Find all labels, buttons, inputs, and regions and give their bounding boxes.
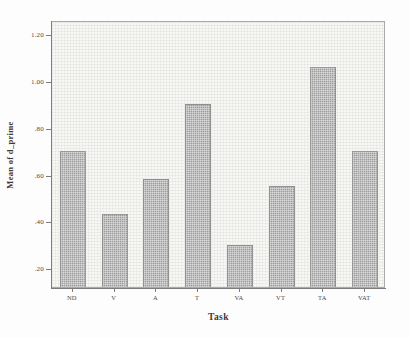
y-axis-tick-label: .40 xyxy=(35,218,44,226)
y-axis-tick-label: .20 xyxy=(35,265,44,273)
x-axis-tick xyxy=(114,288,115,292)
x-axis-tick-label: VAT xyxy=(358,294,370,301)
x-axis-line xyxy=(51,288,386,289)
y-axis-tick xyxy=(46,222,51,223)
bar xyxy=(143,179,169,287)
y-axis-tick xyxy=(46,129,51,130)
x-axis-tick xyxy=(322,288,323,292)
x-axis-tick-label: ND xyxy=(67,294,77,301)
y-axis-line xyxy=(51,21,52,289)
y-axis-tick-label: 1.00 xyxy=(31,78,44,86)
bar xyxy=(185,104,211,287)
x-axis-tick xyxy=(239,288,240,292)
bar xyxy=(269,186,295,287)
y-axis-tick xyxy=(46,269,51,270)
y-axis-tick-label: .80 xyxy=(35,125,44,133)
y-axis-tick-label: 1.20 xyxy=(31,31,44,39)
x-axis-tick-label: VT xyxy=(276,294,285,301)
bar xyxy=(102,214,128,287)
y-axis-tick xyxy=(46,35,51,36)
x-axis-tick-label: VA xyxy=(234,294,243,301)
x-axis-tick-label: TA xyxy=(318,294,327,301)
plot-area xyxy=(51,21,385,288)
x-axis-tick-label: A xyxy=(153,294,158,301)
bar xyxy=(60,151,86,287)
bar xyxy=(227,245,253,287)
y-axis-tick xyxy=(46,176,51,177)
x-axis-title: Task xyxy=(51,312,386,322)
x-axis-tick xyxy=(72,288,73,292)
bar xyxy=(352,151,378,287)
y-axis-title: Mean of d_prime xyxy=(5,121,15,188)
x-axis-tick xyxy=(155,288,156,292)
x-axis-tick-label: T xyxy=(195,294,199,301)
bar-series xyxy=(52,22,384,287)
x-axis-tick xyxy=(281,288,282,292)
x-axis-tick xyxy=(364,288,365,292)
chart-figure: .20.40.60.801.001.20 NDVATVAVTTAVAT Mean… xyxy=(0,0,410,338)
x-axis-tick-label: V xyxy=(111,294,116,301)
y-axis-tick-label: .60 xyxy=(35,172,44,180)
bar xyxy=(310,67,336,287)
x-axis-tick xyxy=(197,288,198,292)
y-axis-tick xyxy=(46,82,51,83)
